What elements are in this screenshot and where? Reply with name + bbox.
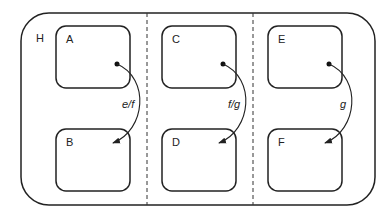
transition-label-C-D: f/g	[228, 98, 241, 110]
state-F-label: F	[278, 136, 285, 148]
state-A[interactable]: A	[56, 26, 130, 88]
state-C[interactable]: C	[162, 26, 236, 88]
state-E[interactable]: E	[268, 26, 342, 88]
state-E-label: E	[278, 33, 285, 45]
transition-label-E-F: g	[340, 98, 347, 110]
state-D-label: D	[172, 136, 180, 148]
state-A-label: A	[66, 33, 74, 45]
container-label: H	[36, 32, 44, 44]
state-B[interactable]: B	[56, 129, 130, 191]
container-H	[21, 13, 375, 205]
state-F[interactable]: F	[268, 129, 342, 191]
transition-label-A-B: e/f	[122, 98, 135, 110]
statechart-diagram: H A B e/f C D f/g E F g	[0, 0, 390, 215]
state-B-label: B	[66, 136, 73, 148]
state-D[interactable]: D	[162, 129, 236, 191]
state-C-label: C	[172, 33, 180, 45]
